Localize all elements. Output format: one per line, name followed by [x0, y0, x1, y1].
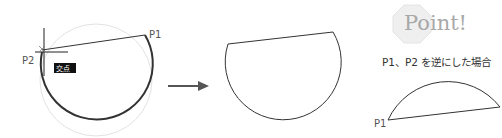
trimmed-circle	[225, 32, 341, 120]
reversed-p1-label: P1	[374, 118, 386, 129]
step1-circle-group: 交点 P1 P2	[22, 24, 161, 136]
reversed-example-shape: P1	[374, 82, 500, 129]
diagram-canvas: 交点 P1 P2 Point! P1、P2 を逆にした場合 P1	[0, 0, 502, 138]
snap-tooltip-label: 交点	[56, 64, 70, 73]
p2-label: P2	[22, 55, 34, 66]
point-title: Point!	[404, 11, 467, 35]
reverse-note: P1、P2 を逆にした場合	[382, 56, 492, 68]
step2-result-shape	[225, 32, 341, 120]
right-arrow-icon	[168, 81, 209, 91]
chord-line	[42, 35, 145, 50]
point-badge: Point!	[393, 5, 467, 43]
p1-label: P1	[149, 29, 161, 40]
reversed-arc	[388, 82, 500, 120]
